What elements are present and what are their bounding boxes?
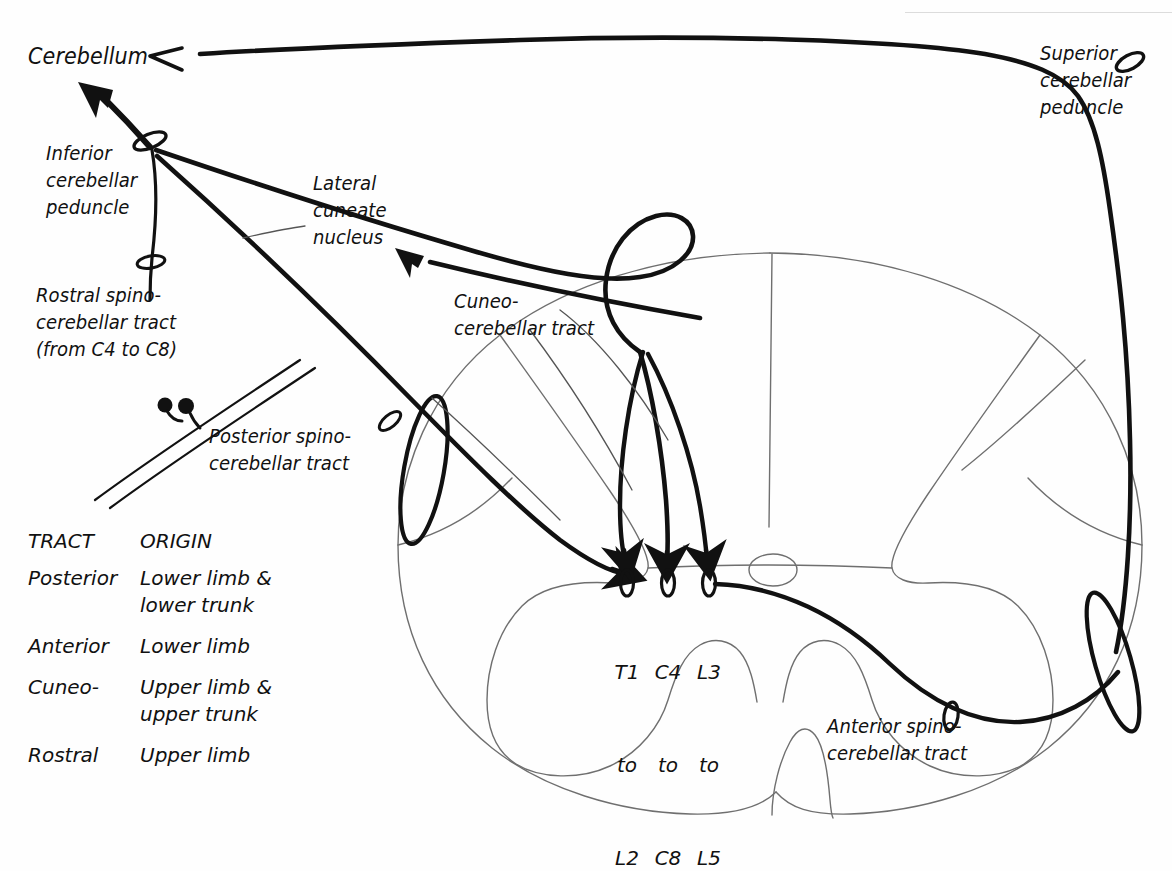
legend-tract-name: Rostral [28, 742, 140, 783]
diagram-canvas: Cerebellum Inferior cerebellar peduncle … [0, 0, 1172, 871]
legend-row: Cuneo- Upper limb & upper trunk [28, 674, 320, 742]
cuneo-label-leader-2 [530, 330, 632, 490]
legend-header-tract: TRACT [28, 528, 140, 565]
segment-line-1: T1 [605, 657, 649, 688]
segment-line-1: L3 [687, 657, 731, 688]
legend-row: Anterior Lower limb [28, 633, 320, 674]
segment-line-3: C8 [646, 843, 690, 871]
label-inferior-cerebellar-peduncle: Inferior cerebellar peduncle [46, 140, 137, 222]
lateral-cuneate-leader [243, 226, 305, 238]
legend-header-row: TRACT ORIGIN [28, 528, 320, 565]
legend-row: Posterior Lower limb & lower trunk [28, 565, 320, 633]
segment-column-anterior: L3 to L5 [687, 595, 731, 871]
segment-line-1: C4 [646, 657, 690, 688]
segment-column-posterior: T1 to L2 [605, 595, 649, 871]
legend-row: Rostral Upper limb [28, 742, 320, 783]
label-cerebellum: Cerebellum [28, 40, 148, 73]
legend-tract-origin: Upper limb & upper trunk [140, 674, 320, 742]
label-posterior-spinocerebellar-tract: Posterior spino- cerebellar tract [209, 423, 351, 477]
segment-line-2: to [687, 750, 731, 781]
segment-line-2: to [646, 750, 690, 781]
segment-line-3: L2 [605, 843, 649, 871]
legend-tract-origin: Lower limb [140, 633, 320, 674]
segment-column-cuneo: C4 to C8 [646, 595, 690, 871]
label-cuneocerebellar-tract: Cuneo- cerebellar tract [454, 288, 594, 342]
tract-origin-legend: TRACT ORIGIN Posterior Lower limb & lowe… [28, 528, 320, 783]
label-lateral-cuneate-nucleus: Lateral cuneate nucleus [313, 170, 387, 252]
legend-header-origin: ORIGIN [140, 528, 320, 565]
legend-tract-origin: Lower limb & lower trunk [140, 565, 320, 633]
segment-line-2: to [605, 750, 649, 781]
legend-tract-name: Cuneo- [28, 674, 140, 742]
posterior-column-leader [432, 398, 560, 520]
label-superior-cerebellar-peduncle: Superior cerebellar peduncle [1040, 40, 1131, 122]
label-rostral-spinocerebellar-tract: Rostral spino- cerebellar tract (from C4… [36, 282, 177, 364]
legend-tract-name: Posterior [28, 565, 140, 633]
legend-table: TRACT ORIGIN Posterior Lower limb & lowe… [28, 528, 320, 783]
legend-tract-origin: Upper limb [140, 742, 320, 783]
segment-line-3: L5 [687, 843, 731, 871]
label-anterior-spinocerebellar-tract: Anterior spino- cerebellar tract [827, 713, 967, 767]
legend-tract-name: Anterior [28, 633, 140, 674]
